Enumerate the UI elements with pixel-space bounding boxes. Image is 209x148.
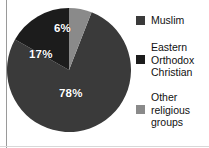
legend-swatch-eastern-orthodox-christian (136, 55, 145, 64)
legend-swatch-muslim (136, 16, 145, 25)
pie-label-other-religious-groups: 6% (54, 22, 71, 34)
pie-label-muslim: 78% (59, 87, 83, 99)
pie-graphic: 6% 17% 78% (7, 8, 131, 132)
legend-item-other-religious-groups[interactable]: Other religious groups (136, 91, 209, 129)
legend: Muslim Eastern Orthodox Christian Other … (136, 10, 209, 142)
pie-label-eastern-orthodox-christian: 17% (29, 48, 53, 60)
legend-swatch-other-religious-groups (136, 105, 145, 114)
legend-item-eastern-orthodox-christian[interactable]: Eastern Orthodox Christian (136, 41, 209, 79)
legend-label-eastern-orthodox-christian: Eastern Orthodox Christian (151, 41, 194, 79)
legend-label-other-religious-groups: Other religious groups (151, 91, 190, 129)
legend-label-muslim: Muslim (151, 14, 184, 27)
pie-chart-figure: 6% 17% 78% Muslim Eastern Orthodox Chris… (0, 0, 209, 148)
legend-item-muslim[interactable]: Muslim (136, 14, 209, 27)
bottom-rule (0, 146, 209, 147)
